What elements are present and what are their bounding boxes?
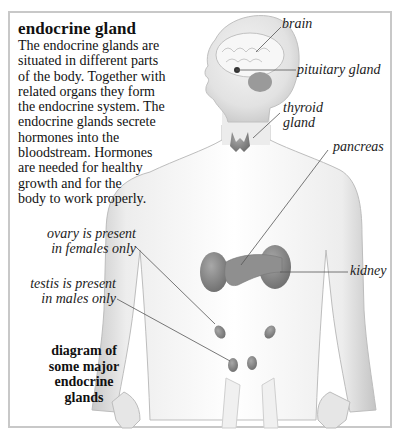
label-thyroid-gland: thyroid gland [283,100,323,130]
label-testis-line1: testis is present [20,276,116,291]
description-line: hormones into the [18,130,208,145]
left-testis-organ [228,358,238,372]
caption-line: endocrine [24,374,144,390]
description-line: the endocrine system. The [18,99,208,114]
left-kidney-organ [200,252,228,292]
label-ovary-line1: ovary is present [30,226,136,241]
description-line: The endocrine glands are [18,38,208,53]
description-line: are needed for healthy [18,160,208,175]
caption-line: diagram of [24,343,144,359]
description-line: of the body. Together with [18,69,208,84]
label-pancreas: pancreas [333,139,384,154]
description-line: related organs they form [18,84,208,99]
description-line: situated in different parts [18,53,208,68]
description-paragraph: The endocrine glands are situated in dif… [18,38,208,206]
diagram-caption: diagram of some major endocrine glands [24,343,144,405]
description-line: body to work properly. [18,191,208,206]
right-hand [318,392,350,428]
caption-line: glands [24,390,144,406]
page-title: endocrine gland [18,19,136,39]
label-testis-line2: in males only [20,291,116,306]
label-brain: brain [282,16,312,31]
label-ovary: ovary is present in females only [30,226,136,256]
description-line: endocrine glands secrete [18,114,208,129]
label-thyroid-line1: thyroid [283,100,323,115]
label-ovary-line2: in females only [30,241,136,256]
description-line: bloodstream. Hormones [18,145,208,160]
label-kidney: kidney [350,263,387,278]
label-testis: testis is present in males only [20,276,116,306]
right-testis-organ [247,356,257,370]
caption-line: some major [24,359,144,375]
label-thyroid-line2: gland [283,115,323,130]
description-line: growth and for the [18,176,208,191]
label-pituitary-gland: pituitary gland [297,62,381,77]
